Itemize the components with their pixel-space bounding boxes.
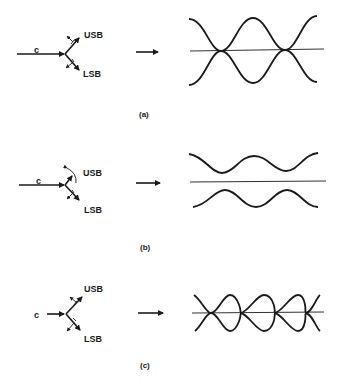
panel-b bbox=[19, 153, 326, 207]
carrier-label-b: c bbox=[36, 177, 41, 186]
usb-phasor bbox=[66, 297, 82, 314]
panel-c bbox=[47, 295, 324, 331]
usb-rotation-arrow bbox=[70, 297, 76, 302]
lsb-label-c: LSB bbox=[84, 335, 102, 344]
waveform-a bbox=[189, 16, 324, 85]
lower-envelope bbox=[189, 50, 317, 85]
waveform-c bbox=[192, 295, 324, 331]
lower-envelope bbox=[193, 190, 318, 207]
diagram-canvas bbox=[0, 0, 342, 387]
lsb-rotation-tick bbox=[73, 318, 76, 321]
usb-rotation-arrow bbox=[67, 36, 73, 42]
upper-envelope bbox=[189, 16, 317, 51]
upper-envelope bbox=[194, 295, 320, 313]
lsb-label-a: LSB bbox=[83, 70, 101, 79]
usb-phasor bbox=[65, 176, 72, 185]
carrier-label-c: c bbox=[34, 311, 39, 320]
carrier-label-a: c bbox=[34, 46, 39, 55]
lower-envelope bbox=[195, 313, 320, 331]
caption-c: (c) bbox=[140, 362, 150, 370]
caption-a: (a) bbox=[139, 111, 149, 119]
waveform-b bbox=[189, 153, 326, 207]
centerline bbox=[190, 49, 324, 51]
usb-label-b: USB bbox=[83, 169, 102, 178]
caption-b: (b) bbox=[140, 244, 150, 252]
lsb-rotation-arrow bbox=[67, 194, 72, 199]
lsb-phasor bbox=[65, 185, 79, 200]
lsb-label-b: LSB bbox=[84, 206, 102, 215]
phasor-diagram-b bbox=[19, 168, 79, 200]
upper-envelope bbox=[189, 153, 318, 173]
phasor-diagram-a bbox=[17, 36, 79, 70]
panel-a bbox=[17, 16, 324, 85]
lsb-phasor bbox=[66, 314, 80, 330]
usb-label-a: USB bbox=[84, 31, 103, 40]
usb-label-c: USB bbox=[84, 285, 103, 294]
centerline bbox=[190, 181, 326, 182]
lsb-rotation-arrow bbox=[66, 63, 72, 68]
lsb-rotation-arrow bbox=[67, 323, 74, 331]
phasor-diagram-c bbox=[47, 297, 82, 331]
